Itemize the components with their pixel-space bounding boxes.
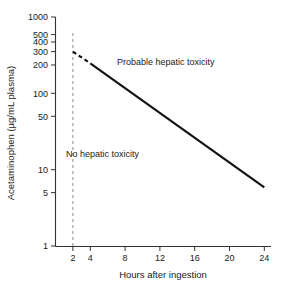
annotation-probable-hepatic-toxicity: Probable hepatic toxicity bbox=[117, 57, 215, 67]
x-tick-label-12: 12 bbox=[155, 253, 165, 263]
y-tick-label-10: 10 bbox=[38, 165, 48, 175]
y-tick-label-5: 5 bbox=[43, 188, 48, 198]
y-tick-label-200: 200 bbox=[33, 60, 48, 70]
y-tick-label-100: 100 bbox=[33, 89, 48, 99]
y-tick-label-50: 50 bbox=[38, 112, 48, 122]
y-tick-label-1000: 1000 bbox=[28, 12, 48, 22]
x-tick-label-8: 8 bbox=[123, 253, 128, 263]
y-axis-title: Acetaminophen (µg/mL plasma) bbox=[5, 66, 16, 201]
x-tick-label-2: 2 bbox=[70, 253, 75, 263]
x-tick-label-20: 20 bbox=[224, 253, 234, 263]
x-tick-label-16: 16 bbox=[190, 253, 200, 263]
nomogram-figure: 1000 500 400 300 200 100 50 10 5 1 2 4 8… bbox=[0, 0, 282, 289]
y-tick-label-300: 300 bbox=[33, 47, 48, 57]
acetaminophen-nomogram-chart: 1000 500 400 300 200 100 50 10 5 1 2 4 8… bbox=[0, 0, 282, 289]
x-tick-label-4: 4 bbox=[88, 253, 93, 263]
annotation-no-hepatic-toxicity: No hepatic toxicity bbox=[66, 149, 140, 159]
x-axis-title: Hours after ingestion bbox=[119, 269, 207, 280]
x-tick-label-24: 24 bbox=[259, 253, 269, 263]
y-tick-label-400: 400 bbox=[33, 37, 48, 47]
y-tick-label-1: 1 bbox=[43, 241, 48, 251]
